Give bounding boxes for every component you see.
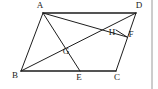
segment-AB xyxy=(21,13,43,71)
segment-HF xyxy=(116,30,127,37)
geometry-canvas: A B C D E F G H xyxy=(0,0,158,89)
vertex-label-D: D xyxy=(136,0,143,10)
vertex-label-E: E xyxy=(76,72,82,82)
vertex-label-C: C xyxy=(114,72,120,82)
vertex-label-G: G xyxy=(63,46,70,56)
vertex-label-B: B xyxy=(12,70,18,80)
vertex-label-F: F xyxy=(128,29,133,39)
vertex-label-H: H xyxy=(109,27,116,37)
geometry-figure: A B C D E F G H xyxy=(0,0,158,89)
vertex-label-A: A xyxy=(37,0,44,10)
